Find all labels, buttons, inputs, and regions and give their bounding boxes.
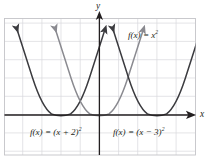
label-fx-x-minus-3-squared-exponent: 2 — [162, 126, 165, 132]
label-fx-x-minus-3-squared: f(x) = (x − 3)2 — [113, 128, 164, 137]
label-fx-x-plus-2-squared-exponent: 2 — [79, 126, 82, 132]
x-axis-label: x — [200, 110, 204, 119]
label-fx-x-plus-2-squared: f(x) = (x + 2)2 — [30, 128, 81, 137]
coordinate-plane — [0, 0, 210, 163]
label-fx-x-squared-text: f(x) = x — [128, 30, 155, 40]
label-fx-x-plus-2-squared-text: f(x) = (x + 2) — [30, 127, 79, 137]
y-axis-label: y — [96, 2, 100, 11]
graph-figure: y x f(x) = x2 f(x) = (x + 2)2 f(x) = (x … — [0, 0, 210, 163]
label-fx-x-minus-3-squared-text: f(x) = (x − 3) — [113, 127, 162, 137]
label-fx-x-squared-exponent: 2 — [155, 29, 158, 35]
label-fx-x-squared: f(x) = x2 — [128, 31, 158, 40]
